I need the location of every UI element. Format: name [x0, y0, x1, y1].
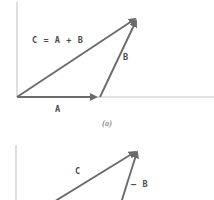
label-vector-b: B — [123, 53, 128, 62]
label-resultant-c-equals-a-plus-b: C = A + B — [32, 36, 83, 45]
figure-canvas — [0, 0, 214, 200]
panel-b-vectors — [52, 152, 137, 200]
label-resultant-c-lower: C — [75, 167, 80, 176]
vector-addition-figure: C = A + B B A (a) C – B — [0, 0, 214, 200]
vector-c-arrow — [17, 19, 135, 97]
label-vector-a: A — [55, 105, 60, 114]
panel-a-vectors — [17, 19, 136, 97]
label-vector-negative-b: – B — [131, 180, 148, 189]
vector-c-lower-arrow — [52, 152, 135, 200]
vector-b-arrow — [100, 21, 136, 97]
panel-a-axes — [17, 2, 214, 97]
panel-a-caption: (a) — [0, 120, 214, 128]
